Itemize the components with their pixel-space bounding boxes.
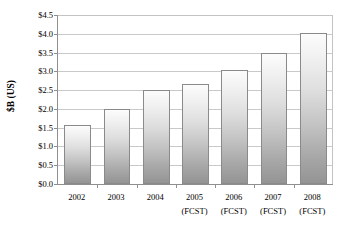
y-tick-label: $3.5 xyxy=(20,49,53,57)
y-tick-mark xyxy=(54,165,58,166)
x-tick-label-year: 2008 xyxy=(293,190,332,204)
x-tick-mark xyxy=(97,184,98,188)
bar xyxy=(104,109,131,184)
x-tick-mark xyxy=(294,184,295,188)
gridline xyxy=(58,71,333,72)
plot-frame-top-border xyxy=(58,15,333,16)
y-tick-label: $0.0 xyxy=(20,180,53,188)
y-tick-mark xyxy=(54,34,58,35)
plot-area xyxy=(57,15,333,185)
x-tick-label: 2005(FCST) xyxy=(175,190,214,218)
x-tick-label-forecast: (FCST) xyxy=(253,204,292,218)
x-tick-label-forecast: (FCST) xyxy=(175,204,214,218)
bar xyxy=(143,90,170,184)
y-axis-title-label: $B (US) xyxy=(6,80,16,112)
y-tick-mark xyxy=(54,146,58,147)
y-tick-label: $2.5 xyxy=(20,86,53,94)
y-tick-mark xyxy=(54,109,58,110)
x-tick-label-year: 2004 xyxy=(136,190,175,204)
y-tick-mark xyxy=(54,90,58,91)
y-tick-label: $4.5 xyxy=(20,11,53,19)
bar xyxy=(182,84,209,184)
bar xyxy=(64,125,91,184)
gridline xyxy=(58,53,333,54)
x-tick-label-year: 2005 xyxy=(175,190,214,204)
bar xyxy=(300,33,327,184)
bar xyxy=(261,53,288,184)
x-tick-mark xyxy=(176,184,177,188)
x-tick-mark xyxy=(254,184,255,188)
x-tick-label-forecast: (FCST) xyxy=(293,204,332,218)
bar xyxy=(221,70,248,184)
y-tick-mark xyxy=(54,184,58,185)
x-tick-mark xyxy=(215,184,216,188)
x-tick-label: 2006(FCST) xyxy=(214,190,253,218)
x-tick-label-year: 2003 xyxy=(96,190,135,204)
x-axis-tick-labels: 2002200320042005(FCST)2006(FCST)2007(FCS… xyxy=(57,190,332,229)
x-tick-label: 2007(FCST) xyxy=(253,190,292,218)
x-tick-mark xyxy=(137,184,138,188)
bar-chart: $B (US) $4.5$4.0$3.5$3.0$2.5$2.0$1.5$1.0… xyxy=(0,0,346,229)
y-tick-mark xyxy=(54,15,58,16)
x-tick-label-year: 2002 xyxy=(57,190,96,204)
x-tick-label: 2008(FCST) xyxy=(293,190,332,218)
plot-frame-right-border xyxy=(332,15,333,184)
x-tick-label-year: 2007 xyxy=(253,190,292,204)
x-tick-label-year: 2006 xyxy=(214,190,253,204)
y-axis-title: $B (US) xyxy=(2,0,20,192)
x-tick-label-forecast: (FCST) xyxy=(214,204,253,218)
y-tick-label: $4.0 xyxy=(20,30,53,38)
y-tick-mark xyxy=(54,53,58,54)
y-tick-label: $2.0 xyxy=(20,105,53,113)
y-tick-mark xyxy=(54,128,58,129)
y-tick-label: $3.0 xyxy=(20,67,53,75)
y-tick-label: $1.5 xyxy=(20,124,53,132)
y-tick-label: $1.0 xyxy=(20,142,53,150)
y-axis-tick-labels: $4.5$4.0$3.5$3.0$2.5$2.0$1.5$1.0$0.5$0.0 xyxy=(20,0,53,229)
x-tick-label: 2004 xyxy=(136,190,175,204)
x-tick-label: 2002 xyxy=(57,190,96,204)
gridline xyxy=(58,34,333,35)
y-tick-label: $0.5 xyxy=(20,161,53,169)
y-tick-mark xyxy=(54,71,58,72)
x-tick-label: 2003 xyxy=(96,190,135,204)
